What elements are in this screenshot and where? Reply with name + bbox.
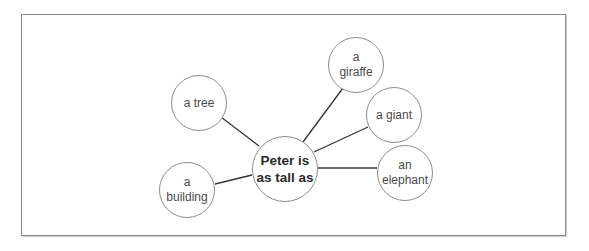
node-giraffe-label: a giraffe [339, 50, 372, 80]
node-building-label: a building [166, 175, 207, 205]
node-tree-label: a tree [184, 96, 215, 111]
node-giraffe: a giraffe [328, 37, 384, 93]
edge-giant [314, 127, 368, 152]
node-elephant: an elephant [377, 145, 433, 201]
edge-giraffe [303, 88, 343, 142]
edge-building [215, 175, 252, 184]
connector-lines [0, 0, 589, 251]
central-node-label: Peter is as tall as [256, 152, 313, 186]
node-giant: a giant [366, 87, 422, 143]
node-elephant-label: an elephant [382, 158, 428, 188]
edge-tree [221, 117, 259, 146]
node-building: a building [159, 162, 215, 218]
node-giant-label: a giant [376, 108, 412, 123]
central-node: Peter is as tall as [252, 136, 318, 202]
node-tree: a tree [171, 75, 227, 131]
